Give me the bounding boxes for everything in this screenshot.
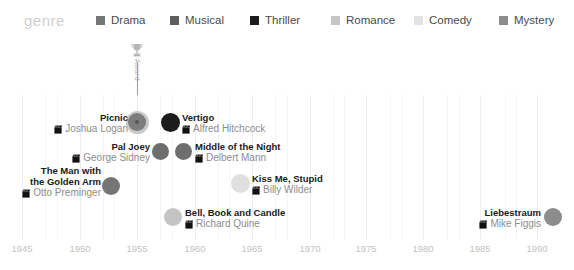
gridline-minor bbox=[287, 95, 288, 240]
film-director-row: Mike Figgis bbox=[479, 218, 541, 230]
x-axis-tick-1990: 1990 bbox=[526, 243, 547, 254]
legend-item-label: Musical bbox=[185, 14, 224, 26]
legend: genre DramaMusicalThrillerRomanceComedyM… bbox=[0, 0, 574, 40]
film-director-name: Otto Preminger bbox=[33, 187, 101, 199]
film-title: The Man with bbox=[22, 165, 101, 176]
x-axis-tick-1985: 1985 bbox=[469, 243, 490, 254]
data-point-bubble[interactable] bbox=[231, 174, 250, 193]
legend-item-drama[interactable]: Drama bbox=[96, 14, 146, 26]
x-axis-tick-1960: 1960 bbox=[184, 243, 205, 254]
film-title: Pal Joey bbox=[72, 141, 150, 152]
gridline-minor bbox=[160, 95, 161, 240]
legend-swatch-icon bbox=[499, 16, 508, 25]
plot-area: Award PicnicJoshua LoganVertigoAlfred Hi… bbox=[0, 40, 574, 240]
gridline-minor bbox=[459, 95, 460, 240]
director-icon bbox=[22, 189, 30, 198]
legend-item-comedy[interactable]: Comedy bbox=[414, 14, 472, 26]
film-title: Liebestraum bbox=[479, 207, 541, 218]
director-icon bbox=[54, 125, 62, 134]
award-marker-label: Award bbox=[134, 59, 141, 81]
director-icon bbox=[72, 154, 80, 163]
film-label[interactable]: The Man withthe Golden ArmOtto Preminger bbox=[22, 165, 101, 199]
legend-item-romance[interactable]: Romance bbox=[331, 14, 395, 26]
legend-item-musical[interactable]: Musical bbox=[170, 14, 224, 26]
film-director-name: Richard Quine bbox=[196, 218, 260, 230]
chart-root: genre DramaMusicalThrillerRomanceComedyM… bbox=[0, 0, 574, 270]
film-label[interactable]: Bell, Book and CandleRichard Quine bbox=[185, 207, 285, 230]
legend-item-mystery[interactable]: Mystery bbox=[499, 14, 554, 26]
data-point-bubble[interactable] bbox=[164, 208, 182, 226]
legend-item-label: Romance bbox=[346, 14, 395, 26]
legend-item-label: Thriller bbox=[265, 14, 300, 26]
director-icon bbox=[195, 154, 203, 163]
x-axis-tick-1945: 1945 bbox=[11, 243, 32, 254]
film-director-row: Alfred Hitchcock bbox=[182, 123, 265, 135]
director-icon bbox=[182, 125, 190, 134]
film-director-row: Joshua Logan bbox=[54, 123, 128, 135]
film-director-row: Richard Quine bbox=[185, 218, 285, 230]
film-director-row: Billy Wilder bbox=[252, 184, 323, 196]
data-point-bubble[interactable] bbox=[175, 143, 192, 160]
gridline-minor bbox=[390, 95, 391, 240]
x-axis-tick-1950: 1950 bbox=[69, 243, 90, 254]
film-label[interactable]: Pal JoeyGeorge Sidney bbox=[72, 141, 150, 164]
film-label[interactable]: VertigoAlfred Hitchcock bbox=[182, 112, 265, 135]
legend-swatch-icon bbox=[331, 16, 340, 25]
film-director-name: Delbert Mann bbox=[206, 152, 266, 164]
gridline-minor bbox=[402, 95, 403, 240]
film-director-name: Joshua Logan bbox=[65, 123, 128, 135]
data-point-bubble[interactable] bbox=[544, 208, 562, 226]
x-axis-tick-1980: 1980 bbox=[412, 243, 433, 254]
film-director-row: Otto Preminger bbox=[22, 187, 101, 199]
film-title: Kiss Me, Stupid bbox=[252, 173, 323, 184]
film-director-name: George Sidney bbox=[83, 152, 150, 164]
gridline-minor bbox=[344, 95, 345, 240]
data-point-bubble[interactable] bbox=[152, 143, 169, 160]
director-icon bbox=[252, 186, 260, 195]
legend-item-label: Drama bbox=[111, 14, 146, 26]
gridline-1975 bbox=[366, 95, 367, 240]
film-director-row: Delbert Mann bbox=[195, 152, 281, 164]
film-title: Bell, Book and Candle bbox=[185, 207, 285, 218]
director-icon bbox=[479, 220, 487, 229]
gridline-1970 bbox=[310, 95, 311, 240]
legend-swatch-icon bbox=[250, 16, 259, 25]
data-point-bubble[interactable] bbox=[161, 113, 180, 132]
legend-swatch-icon bbox=[414, 16, 423, 25]
gridline-1980 bbox=[423, 95, 424, 240]
gridline-minor bbox=[447, 95, 448, 240]
x-axis-tick-1970: 1970 bbox=[299, 243, 320, 254]
legend-item-label: Comedy bbox=[429, 14, 472, 26]
director-icon bbox=[185, 220, 193, 229]
trophy-icon bbox=[131, 43, 143, 57]
x-axis: 1945195019551960196519701975198019851990 bbox=[0, 240, 574, 270]
gridline-minor bbox=[333, 95, 334, 240]
legend-item-label: Mystery bbox=[514, 14, 554, 26]
legend-swatch-icon bbox=[96, 16, 105, 25]
x-axis-tick-1965: 1965 bbox=[241, 243, 262, 254]
film-director-row: George Sidney bbox=[72, 152, 150, 164]
film-label[interactable]: Kiss Me, StupidBilly Wilder bbox=[252, 173, 323, 196]
legend-title: genre bbox=[24, 12, 65, 29]
film-director-name: Billy Wilder bbox=[263, 184, 312, 196]
film-director-name: Alfred Hitchcock bbox=[193, 123, 265, 135]
data-point-bubble[interactable] bbox=[102, 177, 120, 195]
film-title: the Golden Arm bbox=[22, 176, 101, 187]
film-title: Picnic bbox=[54, 112, 128, 123]
legend-item-thriller[interactable]: Thriller bbox=[250, 14, 300, 26]
film-director-name: Mike Figgis bbox=[490, 218, 541, 230]
film-label[interactable]: Middle of the NightDelbert Mann bbox=[195, 141, 281, 164]
film-title: Middle of the Night bbox=[195, 141, 281, 152]
x-axis-tick-1955: 1955 bbox=[126, 243, 147, 254]
film-label[interactable]: PicnicJoshua Logan bbox=[54, 112, 128, 135]
film-title: Vertigo bbox=[182, 112, 265, 123]
x-axis-tick-1975: 1975 bbox=[355, 243, 376, 254]
film-label[interactable]: LiebestraumMike Figgis bbox=[479, 207, 541, 230]
legend-swatch-icon bbox=[170, 16, 179, 25]
